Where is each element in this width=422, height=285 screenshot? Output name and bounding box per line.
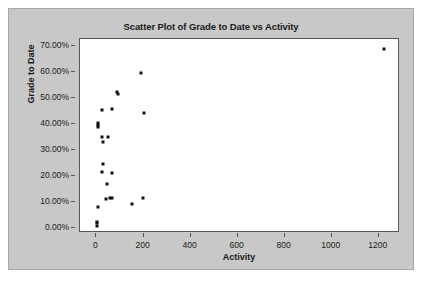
chart-panel: Scatter Plot of Grade to Date vs Activit…: [8, 8, 414, 270]
x-axis-tick-mark: [190, 233, 191, 237]
data-point: [106, 182, 109, 185]
x-axis-tick-mark: [284, 233, 285, 237]
y-axis-tick-mark: [71, 201, 75, 202]
data-point: [101, 141, 104, 144]
x-axis-tick-mark: [143, 233, 144, 237]
data-point: [130, 203, 133, 206]
y-axis-tick-mark: [71, 227, 75, 228]
data-point: [139, 71, 142, 74]
scatter-chart-figure: Scatter Plot of Grade to Date vs Activit…: [0, 0, 422, 285]
y-axis-tick-label: 0.00%: [45, 222, 69, 232]
data-point: [97, 206, 100, 209]
y-axis-tick-label: 30.00%: [40, 144, 69, 154]
x-axis-tick-label: 1000: [321, 240, 340, 250]
x-axis-tick-label: 1200: [368, 240, 387, 250]
data-point: [100, 136, 103, 139]
y-axis-tick-mark: [71, 71, 75, 72]
data-point: [110, 197, 113, 200]
data-point: [116, 93, 119, 96]
data-point: [142, 112, 145, 115]
data-point: [104, 197, 107, 200]
x-axis-tick-mark: [95, 233, 96, 237]
data-point: [96, 125, 99, 128]
x-axis-tick-mark: [331, 233, 332, 237]
x-axis-tick-label: 200: [135, 240, 149, 250]
x-axis-tick-label: 600: [230, 240, 244, 250]
data-point: [382, 48, 385, 51]
y-axis-tick-mark: [71, 149, 75, 150]
y-axis-tick-label: 50.00%: [40, 92, 69, 102]
y-axis-tick-mark: [71, 175, 75, 176]
y-axis-tick-label: 60.00%: [40, 66, 69, 76]
y-axis-tick-label: 40.00%: [40, 118, 69, 128]
y-axis-tick-mark: [71, 97, 75, 98]
data-point: [141, 196, 144, 199]
data-point: [101, 162, 104, 165]
x-axis-tick-label: 800: [277, 240, 291, 250]
y-axis-tick-mark: [71, 123, 75, 124]
chart-title: Scatter Plot of Grade to Date vs Activit…: [9, 21, 413, 32]
data-point: [100, 108, 103, 111]
data-point: [100, 170, 103, 173]
plot-area: [79, 38, 399, 232]
x-axis-tick-label: 400: [182, 240, 196, 250]
y-axis-tick-label: 20.00%: [40, 170, 69, 180]
y-axis-tick-mark: [71, 45, 75, 46]
y-axis-tick-label: 70.00%: [40, 40, 69, 50]
y-axis-tick-label: 10.00%: [40, 196, 69, 206]
data-point: [111, 108, 114, 111]
data-point: [96, 224, 99, 227]
x-axis-title: Activity: [79, 252, 399, 262]
x-axis-tick-mark: [237, 233, 238, 237]
x-axis-tick-label: 0: [93, 240, 98, 250]
data-point: [106, 136, 109, 139]
x-axis-tick-mark: [378, 233, 379, 237]
data-point-layer: [80, 39, 398, 231]
y-axis-tick-labels: 0.00%10.00%20.00%30.00%40.00%50.00%60.00…: [23, 38, 75, 232]
data-point: [111, 171, 114, 174]
